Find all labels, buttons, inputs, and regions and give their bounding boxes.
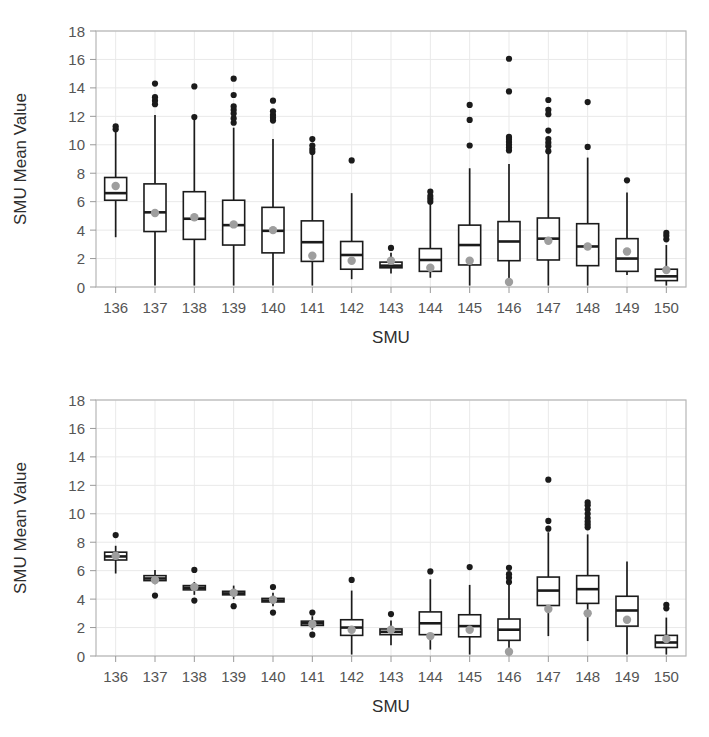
mean-point xyxy=(662,635,670,643)
mean-point xyxy=(505,648,513,656)
boxplot-item xyxy=(655,602,677,655)
x-tick-label: 136 xyxy=(103,299,128,316)
y-tick-label: 8 xyxy=(77,534,85,551)
x-tick-label: 147 xyxy=(536,668,561,685)
mean-point xyxy=(269,226,277,234)
mean-point xyxy=(111,182,119,190)
outlier-point xyxy=(585,499,591,505)
y-axis: 024681012141618 xyxy=(68,392,96,665)
x-tick-label: 136 xyxy=(103,668,128,685)
x-tick-label: 150 xyxy=(654,299,679,316)
outlier-point xyxy=(506,571,512,577)
y-tick-label: 14 xyxy=(68,79,85,96)
box-iqr xyxy=(144,184,166,232)
outlier-point xyxy=(309,632,315,638)
outlier-point xyxy=(663,230,669,236)
mean-point xyxy=(544,237,552,245)
x-tick-label: 147 xyxy=(536,299,561,316)
mean-point xyxy=(229,589,237,597)
outlier-point xyxy=(545,97,551,103)
y-tick-label: 8 xyxy=(77,165,85,182)
mean-point xyxy=(623,616,631,624)
outlier-point xyxy=(191,597,197,603)
mean-point xyxy=(583,609,591,617)
mean-point xyxy=(465,625,473,633)
x-tick-label: 146 xyxy=(496,668,521,685)
y-tick-label: 14 xyxy=(68,448,85,465)
outlier-point xyxy=(388,611,394,617)
outlier-point xyxy=(388,245,394,251)
mean-point xyxy=(151,576,159,584)
mean-point xyxy=(190,583,198,591)
outlier-point xyxy=(231,92,237,98)
mean-point xyxy=(387,256,395,264)
mean-point xyxy=(308,252,316,260)
y-tick-label: 6 xyxy=(77,193,85,210)
boxplot-item xyxy=(301,136,323,286)
outlier-point xyxy=(545,107,551,113)
y-tick-label: 16 xyxy=(68,420,85,437)
y-tick-label: 16 xyxy=(68,51,85,68)
x-tick-label: 148 xyxy=(575,299,600,316)
mean-point xyxy=(505,278,513,286)
outlier-point xyxy=(545,477,551,483)
x-tick-label: 141 xyxy=(300,668,325,685)
mean-point xyxy=(190,213,198,221)
mean-point xyxy=(662,266,670,274)
outlier-point xyxy=(231,603,237,609)
y-tick-label: 0 xyxy=(77,648,85,665)
mean-point xyxy=(426,632,434,640)
y-tick-label: 18 xyxy=(68,392,85,409)
outlier-point xyxy=(506,565,512,571)
y-tick-label: 18 xyxy=(68,23,85,40)
outlier-point xyxy=(506,56,512,62)
mean-point xyxy=(583,242,591,250)
outlier-point xyxy=(309,610,315,616)
x-tick-label: 143 xyxy=(378,668,403,685)
outlier-point xyxy=(113,123,119,129)
outlier-point xyxy=(467,102,473,108)
x-tick-label: 142 xyxy=(339,668,364,685)
x-tick-label: 144 xyxy=(418,299,443,316)
y-tick-label: 6 xyxy=(77,562,85,579)
x-axis-title: SMU xyxy=(372,328,410,347)
mean-point xyxy=(229,220,237,228)
outlier-point xyxy=(467,142,473,148)
outlier-point xyxy=(270,584,276,590)
outlier-point xyxy=(231,103,237,109)
x-tick-label: 139 xyxy=(221,299,246,316)
y-tick-label: 12 xyxy=(68,108,85,125)
outlier-point xyxy=(506,134,512,140)
outlier-point xyxy=(152,81,158,87)
boxplot-item xyxy=(655,230,677,286)
outlier-point xyxy=(349,577,355,583)
outlier-point xyxy=(467,564,473,570)
outlier-point xyxy=(585,144,591,150)
x-tick-label: 150 xyxy=(654,668,679,685)
x-tick-label: 138 xyxy=(182,299,207,316)
boxplot-item xyxy=(223,586,245,610)
y-tick-label: 2 xyxy=(77,250,85,267)
outlier-point xyxy=(545,526,551,532)
outlier-point xyxy=(545,127,551,133)
outlier-point xyxy=(663,602,669,608)
outlier-point xyxy=(309,142,315,148)
gridlines xyxy=(96,400,686,656)
boxplot-item xyxy=(262,584,284,616)
outlier-point xyxy=(427,568,433,574)
x-tick-label: 143 xyxy=(378,299,403,316)
outlier-point xyxy=(585,99,591,105)
boxplot-panel-top: 024681012141618SMU Mean Value13613713813… xyxy=(0,0,709,368)
boxplot-item xyxy=(419,568,441,649)
mean-point xyxy=(387,625,395,633)
outlier-point xyxy=(427,189,433,195)
boxplot-panel-bottom: 024681012141618SMU Mean Value13613713813… xyxy=(0,369,709,737)
outlier-point xyxy=(191,83,197,89)
outlier-point xyxy=(152,94,158,100)
mean-point xyxy=(426,264,434,272)
y-tick-label: 4 xyxy=(77,222,85,239)
y-tick-label: 12 xyxy=(68,477,85,494)
x-tick-label: 149 xyxy=(614,668,639,685)
y-tick-label: 0 xyxy=(77,279,85,296)
outlier-point xyxy=(506,88,512,94)
